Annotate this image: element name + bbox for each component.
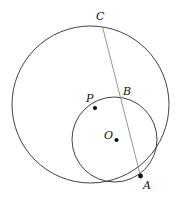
point-label-O: O xyxy=(104,130,113,141)
chord-segment-CA xyxy=(103,27,141,176)
point-dot-O xyxy=(114,138,118,142)
geometry-figure: C B P O A xyxy=(0,0,183,202)
point-label-C: C xyxy=(96,11,104,22)
point-label-P: P xyxy=(86,93,93,104)
point-label-A: A xyxy=(143,180,151,191)
point-dot-A xyxy=(138,174,143,179)
point-label-B: B xyxy=(123,86,131,97)
point-dot-P xyxy=(93,106,97,110)
